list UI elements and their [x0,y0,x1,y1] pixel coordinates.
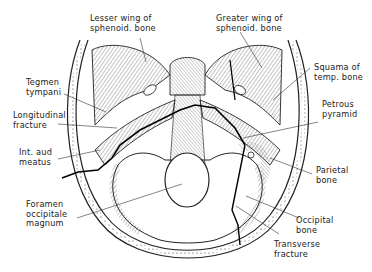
label-occipital-bone: Occipital bone [296,216,334,235]
label-foramen-magnum: Foramen occipitale magnum [26,200,67,229]
posterior-fossa [113,146,266,243]
label-petrous-pyramid: Petrous pyramid [322,100,357,119]
label-tegmen-tympani: Tegmen tympani [26,78,61,97]
label-squama: Squama of temp. bone [314,63,363,82]
label-greater-wing: Greater wing of sphenoid. bone [216,14,283,33]
label-longitudinal-fracture: Longitudinal fracture [13,111,66,130]
foramen-magnum [165,153,209,207]
label-lesser-wing: Lesser wing of sphenoid. bone [90,14,156,33]
label-transverse-fracture: Transverse fracture [274,240,320,259]
label-parietal-bone: Parietal bone [316,166,348,185]
label-int-aud-meatus: Int. aud meatus [19,148,52,167]
sella-turcica [170,58,205,166]
